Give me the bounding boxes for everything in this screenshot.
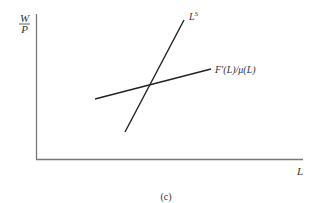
- y-axis-label-denominator: P: [20, 23, 28, 35]
- labor-supply-curve: [125, 20, 184, 132]
- diagram: W P L LS F′(L)/μ(L) (c): [0, 0, 321, 203]
- marginal-product-over-markup-label: F′(L)/μ(L): [214, 64, 256, 76]
- labor-supply-label: LS: [188, 10, 199, 22]
- marginal-product-over-markup-curve: [95, 69, 211, 99]
- x-axis-label: L: [296, 165, 303, 177]
- y-axis-label: W P: [19, 12, 30, 36]
- y-axis-label-numerator: W: [20, 12, 30, 24]
- figure-caption: (c): [160, 191, 171, 203]
